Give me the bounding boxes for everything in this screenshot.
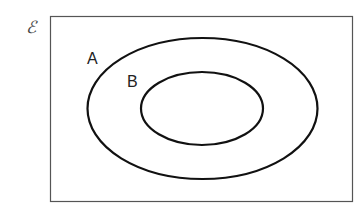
set-a-ellipse [88, 38, 318, 179]
universal-set-symbol: ℰ [26, 17, 38, 37]
set-b-label: B [127, 73, 138, 90]
set-b-ellipse [141, 72, 263, 145]
venn-diagram: ℰ A B [0, 0, 355, 207]
universal-set-rectangle [51, 17, 353, 202]
set-a-label: A [87, 50, 98, 67]
